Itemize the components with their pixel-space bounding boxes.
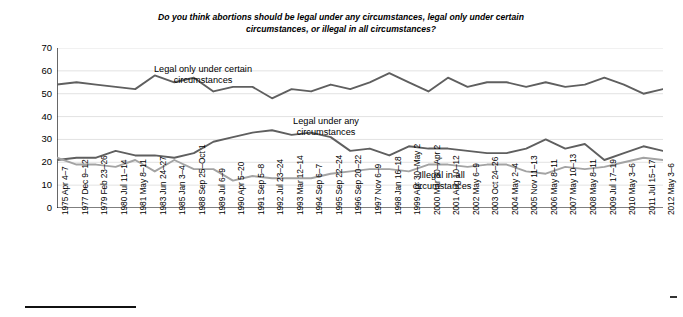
x-axis-tick-label: 1997 Nov 6–9 <box>373 164 383 215</box>
x-axis-tick-label: 2003 Oct 24–26 <box>490 157 500 215</box>
footer-rule <box>25 306 136 308</box>
chart-container: Do you think abortions should be legal u… <box>0 0 683 317</box>
annotation-illegal-all: Illegal in all circumstances <box>395 170 489 192</box>
x-axis-tick-label: 1991 Sep 5–8 <box>256 164 266 215</box>
x-axis-tick-label: 1981 May 8–11 <box>138 159 148 215</box>
x-axis-tick-label: 2006 May 8–11 <box>549 159 559 215</box>
x-axis-tick-label: 1980 Jul 11–14 <box>119 160 129 215</box>
x-axis-tick-label: 2010 May 3–6 <box>627 163 637 215</box>
x-axis-tick-label: 1990 Apr 5–20 <box>236 162 246 215</box>
x-axis-tick-label: 1996 Sep 20–22 <box>353 155 363 215</box>
corner-mark <box>670 296 677 298</box>
x-axis-tick-label: 2008 May 8–11 <box>588 159 598 215</box>
x-axis-tick-label: 1995 Sep 22–24 <box>334 155 344 215</box>
x-axis-tick-label: 1992 Jul 23–24 <box>275 159 285 215</box>
x-axis-tick-label: 1977 Dec 9–12 <box>80 159 90 215</box>
x-axis-tick-label: 2011 Jul 15–17 <box>647 160 657 215</box>
annotation-legal-only-certain: Legal only under certain circumstances <box>143 64 263 86</box>
x-axis-tick-label: 1985 Jan 3–4 <box>177 165 187 215</box>
x-axis-tick-label: 2012 May 3–6 <box>666 163 676 215</box>
x-axis-tick-label: 1994 Sep 6–7 <box>314 164 324 215</box>
x-axis-tick-label: 1988 Sep 25–Oct 1 <box>197 145 207 215</box>
x-axis-tick-label: 2005 Nov 11–13 <box>529 156 539 215</box>
x-axis-tick-label: 2009 Jul 17–19 <box>608 159 618 215</box>
x-axis-tick-label: 1979 Feb 23–26 <box>99 155 109 215</box>
x-axis: 1975 Apr 4–71977 Dec 9–121979 Feb 23–261… <box>0 0 683 317</box>
x-axis-tick-label: 1983 Jun 24–27 <box>158 156 168 215</box>
x-axis-tick-label: 1975 Apr 4–7 <box>60 166 70 215</box>
x-axis-tick-label: 2007 May 10–13 <box>568 154 578 215</box>
x-axis-tick-label: 2004 May 2–4 <box>510 163 520 215</box>
x-axis-tick-label: 1993 Mar 12–14 <box>295 155 305 215</box>
x-axis-tick-label: 1989 Jul 6–9 <box>217 168 227 215</box>
annotation-legal-any: Legal under any circumstances <box>278 116 374 138</box>
